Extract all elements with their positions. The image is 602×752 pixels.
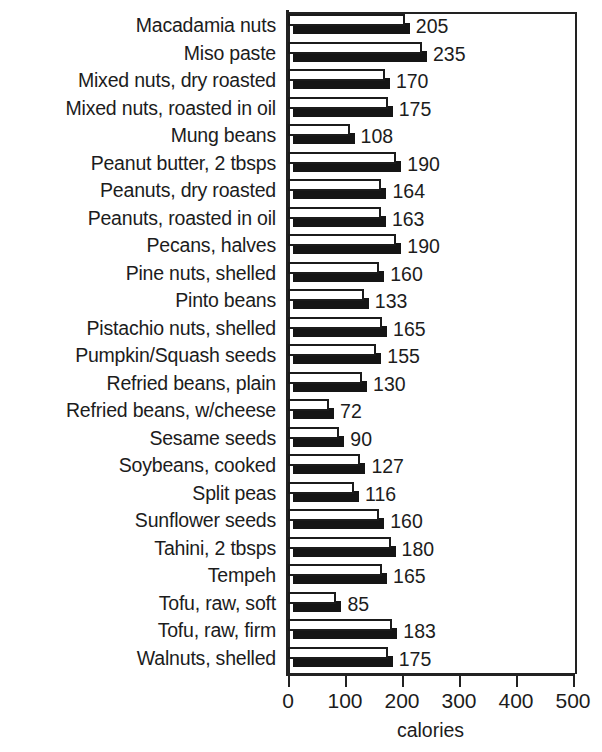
category-label: Split peas (0, 483, 283, 503)
value-labels-layer: 2052351701751081901641631901601331651551… (288, 12, 602, 672)
x-tick (459, 676, 461, 687)
x-axis-ticks (288, 676, 573, 688)
bar-value-label: 85 (347, 594, 369, 614)
bar-value-label: 160 (390, 511, 423, 531)
x-tick-label: 300 (441, 689, 476, 713)
category-label: Mung beans (0, 125, 283, 145)
x-tick (288, 676, 290, 687)
x-tick (345, 676, 347, 687)
bar-value-label: 160 (390, 264, 423, 284)
category-label: Pumpkin/Squash seeds (0, 345, 283, 365)
category-label: Pine nuts, shelled (0, 263, 283, 283)
category-label: Walnuts, shelled (0, 648, 283, 668)
bar-value-label: 90 (350, 429, 372, 449)
category-label: Mixed nuts, dry roasted (0, 70, 283, 90)
bar-value-label: 127 (371, 456, 404, 476)
bar-value-label: 235 (433, 44, 466, 64)
x-tick (516, 676, 518, 687)
category-label: Pistachio nuts, shelled (0, 318, 283, 338)
category-label: Peanuts, dry roasted (0, 180, 283, 200)
category-label: Pecans, halves (0, 235, 283, 255)
x-axis-title: calories (288, 719, 573, 741)
bar-value-label: 164 (392, 181, 425, 201)
x-tick (573, 676, 575, 687)
bar-value-label: 72 (340, 401, 362, 421)
bar-chart: Macadamia nutsMiso pasteMixed nuts, dry … (0, 0, 602, 752)
category-label: Peanuts, roasted in oil (0, 208, 283, 228)
category-label: Tofu, raw, firm (0, 620, 283, 640)
bar-value-label: 165 (393, 319, 426, 339)
category-label: Miso paste (0, 43, 283, 63)
x-tick-label: 400 (498, 689, 533, 713)
x-tick-label: 100 (327, 689, 362, 713)
bar-value-label: 170 (396, 71, 429, 91)
category-axis-labels: Macadamia nutsMiso pasteMixed nuts, dry … (0, 12, 283, 672)
bar-value-label: 180 (402, 539, 435, 559)
category-label: Sunflower seeds (0, 510, 283, 530)
bar-value-label: 175 (399, 649, 432, 669)
category-label: Pinto beans (0, 290, 283, 310)
category-label: Sesame seeds (0, 428, 283, 448)
bar-value-label: 190 (407, 154, 440, 174)
bar-value-label: 175 (399, 99, 432, 119)
x-tick-label: 500 (555, 689, 590, 713)
category-label: Soybeans, cooked (0, 455, 283, 475)
bar-value-label: 205 (416, 16, 449, 36)
bar-value-label: 108 (361, 126, 394, 146)
bar-value-label: 165 (393, 566, 426, 586)
category-label: Tofu, raw, soft (0, 593, 283, 613)
bar-value-label: 183 (403, 621, 436, 641)
category-label: Tahini, 2 tbsps (0, 538, 283, 558)
bar-value-label: 163 (392, 209, 425, 229)
bar-value-label: 190 (407, 236, 440, 256)
x-tick-label: 200 (384, 689, 419, 713)
x-tick-label: 0 (282, 689, 294, 713)
bar-value-label: 130 (373, 374, 406, 394)
category-label: Refried beans, plain (0, 373, 283, 393)
bar-value-label: 133 (375, 291, 408, 311)
category-label: Peanut butter, 2 tbsps (0, 153, 283, 173)
category-label: Mixed nuts, roasted in oil (0, 98, 283, 118)
x-axis-tick-labels: 0100200300400500 (0, 689, 602, 715)
bar-value-label: 116 (365, 484, 396, 504)
category-label: Tempeh (0, 565, 283, 585)
category-label: Macadamia nuts (0, 15, 283, 35)
category-label: Refried beans, w/cheese (0, 400, 283, 420)
bar-value-label: 155 (387, 346, 420, 366)
x-tick (402, 676, 404, 687)
